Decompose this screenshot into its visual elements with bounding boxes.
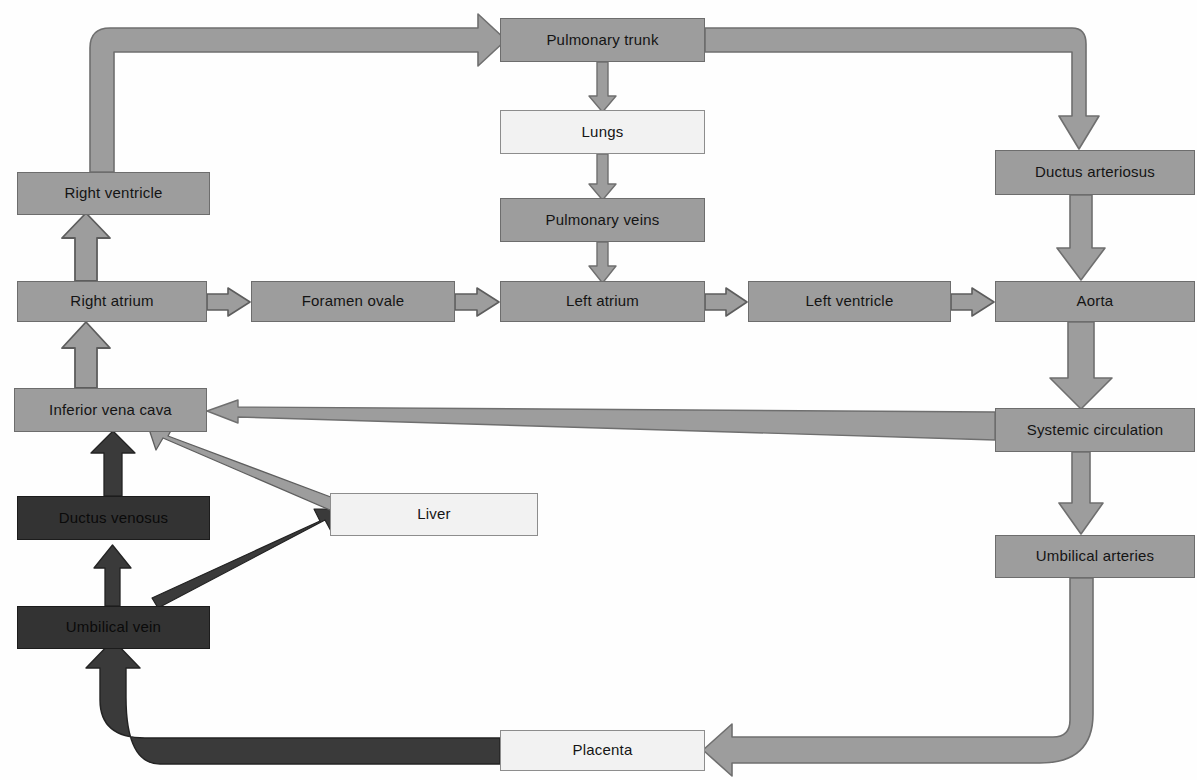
node-lungs[interactable]: Lungs	[500, 110, 705, 154]
node-label-liver: Liver	[331, 506, 537, 523]
node-label-aorta: Aorta	[996, 293, 1194, 310]
edge-systemic-circulation-to-umbilical-arteries	[1059, 452, 1103, 534]
node-label-umbilical-arteries: Umbilical arteries	[996, 548, 1194, 565]
node-label-systemic-circulation: Systemic circulation	[996, 422, 1194, 439]
node-pulmonary-trunk[interactable]: Pulmonary trunk	[500, 18, 705, 62]
node-umbilical-vein[interactable]: Umbilical vein	[17, 606, 210, 649]
node-systemic-circulation[interactable]: Systemic circulation	[995, 408, 1195, 452]
node-label-ductus-venosus: Ductus venosus	[18, 510, 209, 527]
node-label-ductus-arteriosus: Ductus arteriosus	[996, 164, 1194, 181]
fetal-circulation-diagram: Pulmonary trunk Lungs Pulmonary veins Du…	[0, 0, 1197, 780]
node-ductus-venosus[interactable]: Ductus venosus	[17, 496, 210, 540]
node-ductus-arteriosus[interactable]: Ductus arteriosus	[995, 150, 1195, 195]
edge-ductus-venosus-to-inferior-vena-cava	[91, 431, 135, 496]
node-label-placenta: Placenta	[501, 742, 704, 759]
node-aorta[interactable]: Aorta	[995, 281, 1195, 322]
node-label-pulmonary-veins: Pulmonary veins	[501, 212, 704, 229]
node-label-right-atrium: Right atrium	[18, 293, 206, 310]
node-label-right-ventricle: Right ventricle	[18, 185, 209, 202]
node-inferior-vena-cava[interactable]: Inferior vena cava	[14, 388, 207, 432]
edge-lungs-to-pulmonary-veins	[589, 154, 616, 200]
node-liver[interactable]: Liver	[330, 493, 538, 536]
node-label-left-ventricle: Left ventricle	[749, 293, 950, 310]
node-umbilical-arteries[interactable]: Umbilical arteries	[995, 535, 1195, 578]
edge-foramen-ovale-to-left-atrium	[455, 288, 499, 316]
edge-inferior-vena-cava-to-right-atrium	[62, 322, 110, 388]
edge-left-atrium-to-left-ventricle	[705, 288, 747, 316]
edge-umbilical-arteries-to-placenta	[703, 578, 1093, 776]
node-right-atrium[interactable]: Right atrium	[17, 281, 207, 322]
node-label-left-atrium: Left atrium	[501, 293, 704, 310]
node-pulmonary-veins[interactable]: Pulmonary veins	[500, 198, 705, 242]
edge-left-ventricle-to-aorta	[951, 288, 994, 316]
node-foramen-ovale[interactable]: Foramen ovale	[251, 281, 455, 322]
node-label-inferior-vena-cava: Inferior vena cava	[15, 402, 206, 419]
node-label-lungs: Lungs	[501, 124, 704, 141]
edge-right-ventricle-to-pulmonary-trunk	[90, 14, 506, 172]
edge-ductus-arteriosus-to-aorta	[1057, 195, 1105, 280]
node-left-atrium[interactable]: Left atrium	[500, 281, 705, 322]
node-label-pulmonary-trunk: Pulmonary trunk	[501, 32, 704, 49]
edge-systemic-circulation-to-inferior-vena-cava	[207, 400, 995, 440]
edge-pulmonary-trunk-to-lungs	[589, 62, 616, 112]
node-label-umbilical-vein: Umbilical vein	[18, 619, 209, 636]
edge-placenta-to-umbilical-vein	[86, 640, 500, 764]
node-left-ventricle[interactable]: Left ventricle	[748, 281, 951, 322]
edge-aorta-to-systemic-circulation	[1050, 322, 1112, 409]
node-right-ventricle[interactable]: Right ventricle	[17, 172, 210, 215]
edge-right-atrium-to-foramen-ovale	[207, 288, 250, 316]
edge-pulmonary-trunk-to-ductus-arteriosus	[705, 28, 1099, 149]
edge-right-atrium-to-right-ventricle	[62, 213, 110, 281]
edge-umbilical-vein-to-ductus-venosus	[94, 545, 131, 606]
node-placenta[interactable]: Placenta	[500, 730, 705, 771]
node-label-foramen-ovale: Foramen ovale	[252, 293, 454, 310]
edge-pulmonary-veins-to-left-atrium	[589, 242, 616, 283]
